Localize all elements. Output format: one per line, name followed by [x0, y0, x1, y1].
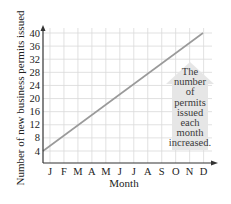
x-tick-label: M [73, 166, 83, 177]
y-tick-labels: 481216202428323640 [30, 28, 41, 157]
x-tick-label: J [118, 166, 122, 177]
x-tick-label: A [144, 166, 152, 177]
line-chart: 481216202428323640 JFMAMJJASOND Thenumbe… [0, 0, 231, 204]
annotation-line: increased. [169, 137, 211, 148]
y-tick-label: 32 [30, 54, 41, 65]
y-tick-label: 16 [30, 106, 41, 117]
y-tick-label: 8 [35, 132, 40, 143]
x-axis-arrow-icon [211, 161, 218, 166]
y-tick-label: 36 [30, 41, 41, 52]
x-tick-label: A [88, 166, 96, 177]
x-tick-label: D [200, 166, 208, 177]
x-tick-label: J [132, 166, 136, 177]
y-axis-label: Number of new business permits issued [14, 10, 26, 186]
y-tick-label: 12 [30, 119, 41, 130]
x-axis-label: Month [109, 177, 139, 189]
x-tick-label: M [101, 166, 111, 177]
x-tick-label: J [48, 166, 52, 177]
x-tick-label: F [61, 166, 67, 177]
x-tick-label: S [159, 166, 165, 177]
y-tick-label: 40 [30, 28, 41, 39]
y-tick-label: 4 [35, 146, 41, 157]
x-tick-labels: JFMAMJJASOND [48, 166, 208, 177]
x-tick-label: O [172, 166, 180, 177]
y-tick-label: 28 [30, 67, 41, 78]
y-tick-label: 24 [30, 80, 41, 91]
y-tick-label: 20 [30, 93, 41, 104]
x-tick-label: N [186, 166, 194, 177]
y-axis-arrow-icon [41, 25, 46, 31]
